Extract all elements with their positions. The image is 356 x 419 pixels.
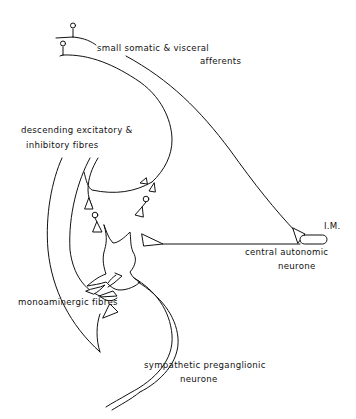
label-monoaminergic-fibres: monoaminergic fibres bbox=[18, 296, 118, 309]
preganglionic-soma bbox=[87, 225, 178, 410]
label-small-somatic-visceral: small somatic & visceral bbox=[97, 42, 209, 55]
label-descending-excitatory: descending excitatory & bbox=[21, 124, 133, 137]
label-preganglionic-neurone: neurone bbox=[180, 373, 218, 386]
label-afferents: afferents bbox=[200, 55, 241, 68]
diagram-canvas: small somatic & visceral afferents desce… bbox=[0, 0, 356, 419]
label-im: I.M. bbox=[324, 220, 341, 233]
afferent-fibre-lower bbox=[60, 41, 172, 182]
label-inhibitory-fibres: inhibitory fibres bbox=[26, 139, 99, 152]
diagram-drawing bbox=[0, 0, 356, 419]
label-sympathetic-preganglionic: sympathetic preganglionic bbox=[144, 359, 266, 372]
descending-fibres bbox=[47, 158, 152, 352]
label-central-autonomic: central autonomic bbox=[245, 246, 328, 259]
label-central-neurone: neurone bbox=[278, 260, 316, 273]
